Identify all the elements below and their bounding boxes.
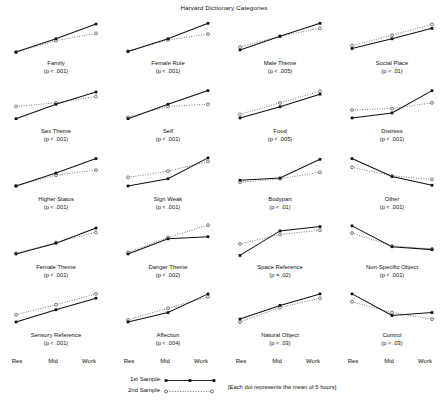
panel-category-label: Higher Status [38, 196, 74, 202]
figure-title: Harvard Dictionary Categories [0, 4, 448, 11]
data-point-first-sample [55, 172, 58, 175]
data-point-first-sample [279, 304, 282, 307]
data-point-first-sample [207, 293, 210, 296]
panel-plot-area [238, 16, 322, 58]
data-point-first-sample [127, 253, 130, 256]
data-point-second-sample [431, 318, 434, 321]
data-point-first-sample [279, 105, 282, 108]
panel-category-label: Sex Theme [41, 128, 71, 134]
x-axis-tick-label: Work [412, 358, 438, 364]
data-point-first-sample [351, 47, 354, 50]
x-axis-tick-group: ResMidWork [224, 358, 336, 370]
data-point-first-sample [127, 50, 130, 53]
data-point-first-sample [239, 49, 242, 52]
chart-panel: Family(p < .001) [0, 14, 112, 82]
data-point-second-sample [351, 300, 354, 303]
legend-label-second-sample: 2nd Sample [128, 387, 160, 393]
series-line-first-sample [352, 159, 432, 186]
data-point-second-sample [391, 107, 394, 110]
data-point-first-sample [207, 22, 210, 25]
chart-panel: Female Theme(p < .001) [0, 218, 112, 286]
data-point-second-sample [391, 34, 394, 37]
panel-category-label: Sign Weak [154, 196, 182, 202]
panel-pvalue-label: (p < .004) [112, 339, 224, 347]
data-point-first-sample [167, 237, 170, 240]
data-point-first-sample [391, 245, 394, 248]
panel-pvalue-label: (p < .005) [224, 67, 336, 75]
data-point-second-sample [319, 27, 322, 30]
data-point-first-sample [127, 185, 130, 188]
x-axis-tick-label: Mid [152, 358, 178, 364]
panel-category-label: Other [385, 196, 400, 202]
x-axis-tick-label: Mid [40, 358, 66, 364]
panel-pvalue-label: (p < .03) [336, 339, 448, 347]
chart-panel: Danger Theme(p < .002) [112, 218, 224, 286]
panel-category-label: Family [47, 60, 64, 66]
panel-caption: Other(p < .001) [336, 195, 448, 211]
legend-swatch-solid-line [164, 376, 222, 385]
chart-panel: Sensory Reference(p < .001) [0, 286, 112, 354]
data-point-first-sample [167, 311, 170, 314]
data-point-second-sample [391, 311, 394, 314]
data-point-first-sample [391, 37, 394, 40]
x-axis-tick-row: ResMidWorkResMidWorkResMidWorkResMidWork [0, 358, 448, 370]
data-point-first-sample [95, 297, 98, 300]
data-point-first-sample [55, 308, 58, 311]
panel-pvalue-label: (p < .001) [336, 271, 448, 279]
data-point-first-sample [319, 93, 322, 96]
data-point-first-sample [239, 318, 242, 321]
series-line-second-sample [240, 298, 320, 322]
panel-caption: Non-Specific Object(p < .001) [336, 263, 448, 279]
data-point-second-sample [239, 46, 242, 49]
panel-pvalue-label: (p < .001) [0, 203, 112, 211]
panel-caption: Danger Theme(p < .002) [112, 263, 224, 279]
legend-entry-first-sample: 1st Sample [86, 376, 226, 386]
data-point-first-sample [15, 253, 18, 256]
panel-caption: Distress(p < .001) [336, 127, 448, 143]
data-point-first-sample [167, 37, 170, 40]
panel-pvalue-label: (p < .001) [112, 135, 224, 143]
panel-caption: Sign Weak(p < .001) [112, 195, 224, 211]
data-point-second-sample [15, 313, 18, 316]
panel-caption: Space Reference(p = .02) [224, 263, 336, 279]
x-axis-tick-label: Work [188, 358, 214, 364]
chart-panel: Female Role(p < .001) [112, 14, 224, 82]
data-point-first-sample [95, 23, 98, 26]
series-line-second-sample [16, 33, 96, 52]
chart-panel: Self(p < .001) [112, 82, 224, 150]
panel-caption: Affection(p < .004) [112, 331, 224, 347]
panel-pvalue-label: (p < .001) [0, 339, 112, 347]
data-point-second-sample [279, 101, 282, 104]
panel-category-label: Social Place [376, 60, 408, 66]
data-point-first-sample [95, 91, 98, 94]
panel-pvalue-label: (p < .005) [224, 135, 336, 143]
panel-caption: Higher Status(p < .001) [0, 195, 112, 211]
x-axis-tick-label: Res [228, 358, 254, 364]
panel-plot-area [350, 288, 434, 330]
panel-plot-area [350, 220, 434, 262]
data-point-second-sample [15, 105, 18, 108]
data-point-first-sample [239, 179, 242, 182]
panel-category-label: Self [163, 128, 173, 134]
panel-pvalue-label: (p < .001) [112, 67, 224, 75]
data-point-second-sample [431, 23, 434, 26]
chart-panel: Space Reference(p = .02) [224, 218, 336, 286]
panel-pvalue-label: (p < .001) [0, 135, 112, 143]
data-point-second-sample [239, 113, 242, 116]
panel-pvalue-label: (p < .002) [112, 271, 224, 279]
data-point-second-sample [239, 242, 242, 245]
chart-panel: Affection(p < .004) [112, 286, 224, 354]
data-point-second-sample [351, 166, 354, 169]
panel-category-label: Female Theme [36, 264, 76, 270]
data-point-first-sample [279, 35, 282, 38]
data-point-first-sample [319, 293, 322, 296]
data-point-first-sample [391, 112, 394, 115]
panel-caption: Natural Object(p < .03) [224, 331, 336, 347]
panel-category-label: Danger Theme [148, 264, 187, 270]
data-point-first-sample [351, 293, 354, 296]
data-point-first-sample [55, 103, 58, 106]
data-point-first-sample [351, 225, 354, 228]
data-point-second-sample [239, 321, 242, 324]
panel-plot-area [350, 84, 434, 126]
data-point-second-sample [95, 292, 98, 295]
